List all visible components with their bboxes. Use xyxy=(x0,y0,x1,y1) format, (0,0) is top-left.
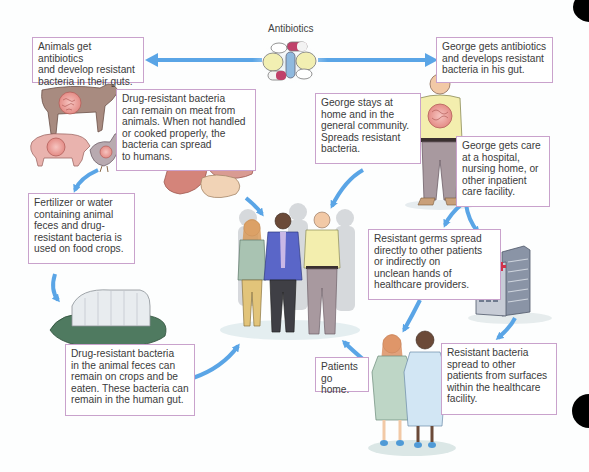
diagram-canvas: Antibiotics Animals get antibiotics and … xyxy=(0,0,589,472)
arrow-germs-to-patients xyxy=(404,300,420,330)
cow-icon xyxy=(42,84,118,134)
fertilizer-box: Fertilizer or water containing animal fe… xyxy=(28,193,135,264)
germs-spread-box: Resistant germs spread directly to other… xyxy=(368,229,501,300)
george-gets-care-box: George gets care at a hospital, nursing … xyxy=(456,136,550,207)
community-people-icon xyxy=(220,203,360,340)
arrow-chicken-to-fertilizer xyxy=(75,170,98,190)
pig-icon xyxy=(31,134,90,166)
crops-box: Drug-resistant bacteria in the animal fe… xyxy=(65,344,195,416)
george-stays-home-box: George stays at home and in the general … xyxy=(315,93,421,164)
surfaces-box: Resistant bacteria spread to other patie… xyxy=(441,343,557,415)
arrow-crops-to-people xyxy=(193,346,238,378)
patients-go-home-box: Patients go home. xyxy=(315,357,369,392)
arrow-home-to-people xyxy=(332,170,363,206)
antibiotic-pills-icon xyxy=(252,41,328,85)
arrow-to-animals xyxy=(145,53,262,67)
antibiotics-label: Antibiotics xyxy=(268,23,314,34)
george-gets-antibiotics-box: George gets antibiotics and develops res… xyxy=(436,37,553,83)
meat-box: Drug-resistant bacteria can remain on me… xyxy=(116,89,256,171)
arrow-fertilizer-to-crops xyxy=(53,274,58,300)
animals-get-antibiotics-box: Animals get antibiotics and develop resi… xyxy=(32,37,144,83)
arrow-to-george xyxy=(318,53,438,67)
arrow-george-care-to-hospital xyxy=(466,204,478,232)
greenhouse-crops-icon xyxy=(50,290,166,348)
